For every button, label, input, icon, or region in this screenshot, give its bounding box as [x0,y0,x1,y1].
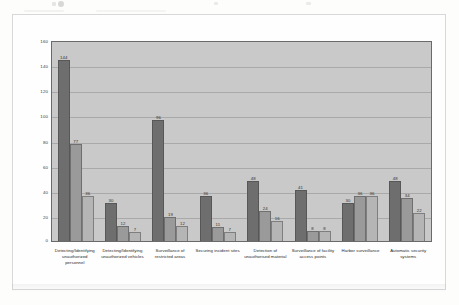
bar: 34 [401,198,413,241]
bar-value-label: 36 [357,191,362,196]
x-category-label: Detection of unauthorised material [242,248,290,288]
bar: 36 [200,196,212,241]
plot-inner: 1447736301279619123611748241641883036364… [52,42,431,241]
bar: 36 [366,196,378,241]
bar-value-label: 30 [109,198,114,203]
bar-value-label: 19 [168,212,173,217]
bar-slot: 7 [224,42,236,241]
x-category-label: Automatic security systems [384,248,432,288]
bar-value-label: 12 [180,221,185,226]
bar-slot: 77 [70,42,82,241]
bar-value-label: 41 [298,185,303,190]
bar-slot: 7 [129,42,141,241]
chart-frame: 20406080100120140160 0 14477363012796191… [12,14,446,290]
y-axis-zero-label: 0 [13,238,48,243]
bar-slot: 96 [152,42,164,241]
bar: 30 [342,203,354,241]
bar: 144 [58,60,70,241]
bar-groups: 1447736301279619123611748241641883036364… [52,42,431,241]
bar-slot: 19 [164,42,176,241]
bar: 11 [212,227,224,241]
x-axis-category-labels: Detecting/Identifying unauthorized perso… [51,248,432,288]
bar: 22 [413,213,425,241]
bar-group: 1447736 [52,42,99,241]
bar-slot: 48 [389,42,401,241]
bar-value-label: 24 [263,206,268,211]
bar: 30 [105,203,117,241]
bar-value-label: 8 [311,226,313,231]
bar-group: 483422 [384,42,431,241]
bar-slot: 30 [105,42,117,241]
bar-slot: 41 [295,42,307,241]
bar-group: 961912 [147,42,194,241]
bar-value-label: 22 [417,208,422,213]
bar-value-label: 36 [369,191,374,196]
bar-value-label: 48 [251,176,256,181]
bar-group: 36117 [194,42,241,241]
bar: 16 [271,221,283,241]
bar-slot: 11 [212,42,224,241]
bar-value-label: 48 [393,176,398,181]
y-tick-label: 40 [18,189,48,194]
bar: 96 [152,120,164,241]
bar-slot: 48 [247,42,259,241]
bar: 7 [129,232,141,241]
bar-value-label: 11 [216,222,221,227]
bar: 48 [247,181,259,241]
x-category-label: Detecting/Identifying unauthorized perso… [51,248,99,288]
bar-slot: 34 [401,42,413,241]
bar-group: 4188 [289,42,336,241]
bar-group: 303636 [336,42,383,241]
bar-slot: 16 [271,42,283,241]
y-tick-label: 60 [18,164,48,169]
x-category-label: Harbor surveillance [337,248,385,288]
bar-slot: 22 [413,42,425,241]
y-tick-label: 80 [18,139,48,144]
bar-slot: 24 [259,42,271,241]
bar-value-label: 8 [323,226,325,231]
bar: 19 [164,217,176,241]
bar-value-label: 7 [134,227,136,232]
bar-slot: 8 [307,42,319,241]
bar: 36 [82,196,94,241]
bar-slot: 36 [82,42,94,241]
y-axis-tick-labels: 20406080100120140160 [13,41,48,242]
bar: 7 [224,232,236,241]
x-category-label: Securing incident sites [194,248,242,288]
bar-value-label: 144 [60,55,67,60]
y-tick-label: 20 [18,214,48,219]
bar-value-label: 30 [345,198,350,203]
bar-value-label: 77 [73,139,78,144]
bar: 8 [319,231,331,241]
x-category-label: Surveillance of restricted areas [146,248,194,288]
bar-slot: 36 [354,42,366,241]
bar-value-label: 36 [203,191,208,196]
bar: 36 [354,196,366,241]
x-category-label: Surveillance of facility access points [289,248,337,288]
y-tick-label: 140 [18,64,48,69]
bar-slot: 8 [319,42,331,241]
bar-slot: 30 [342,42,354,241]
plot-area: 1447736301279619123611748241641883036364… [51,41,432,242]
bar-slot: 36 [366,42,378,241]
bar: 48 [389,181,401,241]
bar-value-label: 96 [156,115,161,120]
bar: 77 [70,144,82,241]
bar: 41 [295,190,307,242]
bar: 24 [259,211,271,241]
bar: 12 [117,226,129,241]
bar-group: 482416 [242,42,289,241]
bar-value-label: 34 [405,193,410,198]
bar: 8 [307,231,319,241]
bar: 12 [176,226,188,241]
y-tick-label: 100 [18,114,48,119]
bar-slot: 12 [117,42,129,241]
bar-group: 30127 [99,42,146,241]
x-category-label: Detecting/Identifying unauthorized vehic… [99,248,147,288]
bar-value-label: 7 [229,227,231,232]
bar-value-label: 12 [121,221,126,226]
y-tick-label: 160 [18,39,48,44]
scan-artifacts [0,0,459,14]
y-tick-label: 120 [18,89,48,94]
bar-slot: 12 [176,42,188,241]
